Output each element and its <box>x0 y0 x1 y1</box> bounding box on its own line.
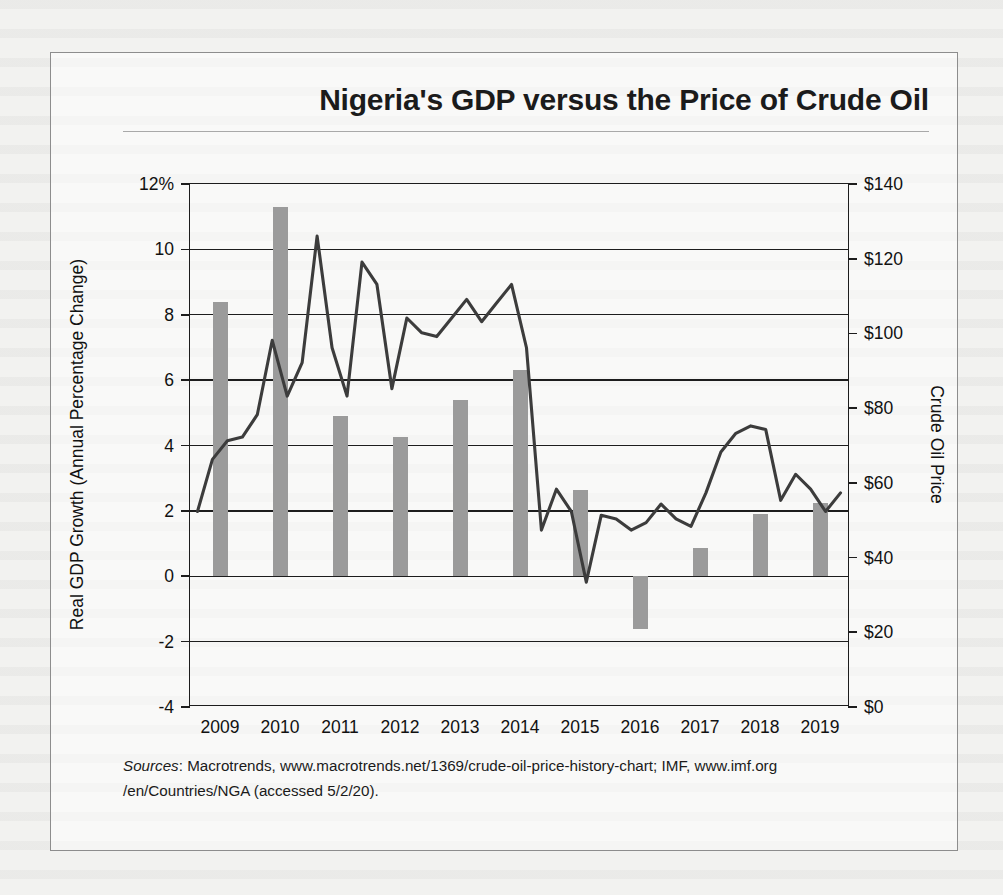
x-tick-label: 2016 <box>621 717 660 738</box>
y-tick-right <box>848 258 857 260</box>
y-tick-label-left: -2 <box>158 631 174 652</box>
source-note: Sources: Macrotrends, www.macrotrends.ne… <box>123 753 917 803</box>
x-tick-label: 2013 <box>441 717 480 738</box>
y-tick-label-left: 10 <box>155 239 174 260</box>
y-tick-label-right: $0 <box>864 697 883 718</box>
plot-wrapper: Real GDP Growth (Annual Percentage Chang… <box>51 53 959 852</box>
y-tick-right <box>848 333 857 335</box>
y-tick-label-left: 2 <box>164 500 174 521</box>
x-tick-label: 2010 <box>261 717 300 738</box>
y-tick-right <box>848 482 857 484</box>
y-tick-left <box>181 575 190 577</box>
x-tick-label: 2015 <box>561 717 600 738</box>
y-tick-left <box>181 314 190 316</box>
crude-oil-polyline <box>197 236 840 582</box>
y-tick-left <box>181 641 190 643</box>
y-tick-left <box>181 510 190 512</box>
y-tick-right <box>848 183 857 185</box>
y-tick-left <box>181 183 190 185</box>
x-tick-label: 2019 <box>801 717 840 738</box>
y-tick-label-left: 12% <box>139 174 174 195</box>
y-tick-label-left: 0 <box>164 566 174 587</box>
plot-area: -4-2024681012% $0$20$40$60$80$100$120$14… <box>189 183 849 706</box>
line-series-crude-oil-price <box>190 184 848 705</box>
source-label: Sources <box>123 757 179 774</box>
source-note-line2: /en/Countries/NGA (accessed 5/2/20). <box>123 782 379 799</box>
x-tick-label: 2017 <box>681 717 720 738</box>
y-tick-label-left: 4 <box>164 435 174 456</box>
y-tick-right <box>848 706 857 708</box>
y-tick-label-right: $120 <box>864 248 903 269</box>
y-tick-right <box>848 557 857 559</box>
y-tick-left <box>181 379 190 381</box>
y-tick-label-left: -4 <box>158 697 174 718</box>
y-tick-label-left: 8 <box>164 304 174 325</box>
x-tick-label: 2012 <box>381 717 420 738</box>
y-axis-title-right-label: Crude Oil Price <box>926 385 947 504</box>
x-tick-label: 2009 <box>201 717 240 738</box>
y-axis-title-left: Real GDP Growth (Annual Percentage Chang… <box>63 183 93 706</box>
y-tick-label-left: 6 <box>164 370 174 391</box>
y-tick-label-right: $140 <box>864 174 903 195</box>
y-tick-right <box>848 631 857 633</box>
source-note-line1-rest: : Macrotrends, www.macrotrends.net/1369/… <box>179 757 777 774</box>
x-tick-label: 2014 <box>501 717 540 738</box>
figure-container: Nigeria's GDP versus the Price of Crude … <box>50 52 958 851</box>
y-tick-right <box>848 407 857 409</box>
y-axis-title-right: Crude Oil Price <box>921 183 951 706</box>
x-tick-label: 2011 <box>321 717 359 738</box>
x-tick-label: 2018 <box>741 717 780 738</box>
y-tick-left <box>181 249 190 251</box>
y-tick-label-right: $60 <box>864 472 893 493</box>
y-tick-label-right: $100 <box>864 323 903 344</box>
y-tick-label-right: $20 <box>864 622 893 643</box>
y-tick-label-right: $80 <box>864 398 893 419</box>
y-tick-left <box>181 706 190 708</box>
y-axis-title-left-label: Real GDP Growth (Annual Percentage Chang… <box>68 259 89 630</box>
y-tick-left <box>181 445 190 447</box>
y-tick-label-right: $40 <box>864 547 893 568</box>
source-note-line1: Sources: Macrotrends, www.macrotrends.ne… <box>123 757 777 774</box>
